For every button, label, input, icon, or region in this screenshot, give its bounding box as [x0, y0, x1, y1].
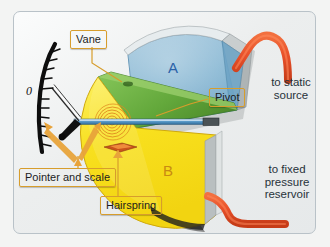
annotation-fixed-reservoir-line3: reservoir — [247, 188, 327, 201]
callout-hairspring[interactable]: Hairspring — [100, 196, 162, 215]
callout-vane[interactable]: Vane — [70, 30, 107, 49]
annotation-fixed-reservoir-line2: pressure — [247, 176, 327, 189]
pointer-needle — [52, 85, 81, 141]
callout-pointer-and-scale[interactable]: Pointer and scale — [19, 168, 116, 187]
annotation-fixed-reservoir: to fixed pressure reservoir — [247, 163, 327, 201]
shaft — [74, 118, 219, 126]
chamber-a-letter: A — [168, 59, 178, 76]
diagram-svg — [0, 0, 330, 247]
annotation-static-source: to static source — [256, 76, 326, 101]
figure-root: A B 0 Vane Pivot Pointer and scale Hairs… — [0, 0, 330, 247]
annotation-static-source-line1: to static — [256, 76, 326, 89]
chamber-b-letter: B — [163, 162, 173, 179]
annotation-fixed-reservoir-line1: to fixed — [247, 163, 327, 176]
annotation-static-source-line2: source — [256, 89, 326, 102]
callout-pivot[interactable]: Pivot — [209, 88, 245, 107]
scale-zero-label: 0 — [26, 84, 32, 99]
